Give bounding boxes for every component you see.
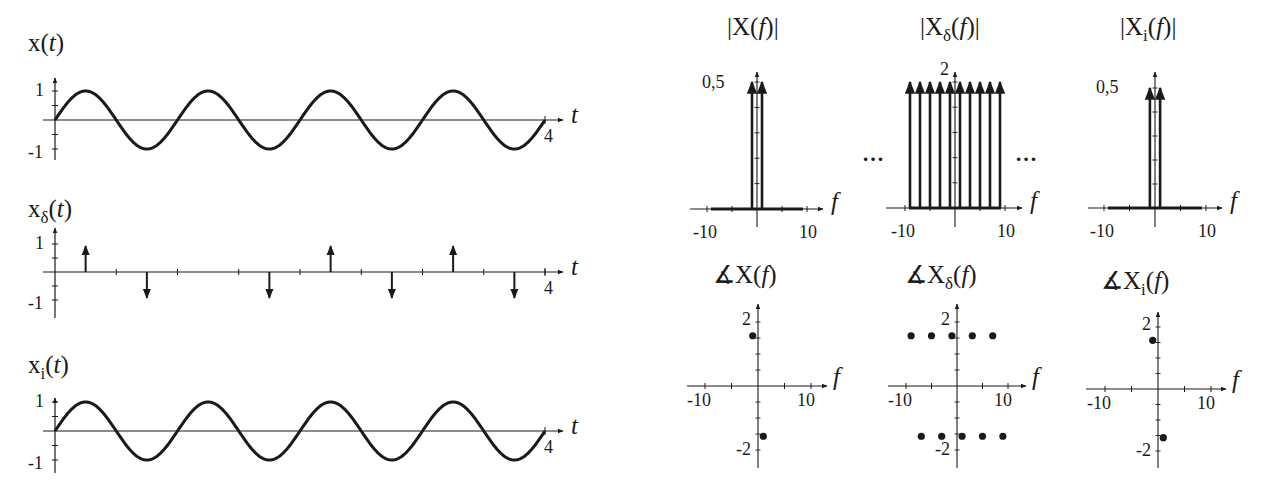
plot-phase-X — [687, 304, 827, 468]
plot-phase-Xi — [1086, 312, 1226, 468]
phase-point — [979, 433, 986, 440]
time-domain-plots — [43, 78, 563, 473]
phase-point — [918, 433, 925, 440]
phase-point — [928, 332, 935, 339]
plot-mag-X — [690, 72, 823, 227]
x-axis-label: t — [571, 254, 578, 279]
y-tick-label: 2 — [941, 310, 950, 328]
x-tick-label: -10 — [687, 391, 711, 409]
x-axis-label: f — [831, 189, 838, 214]
plot-title-x-t: x(t) — [28, 30, 64, 55]
magnitude-spectrum-plots — [690, 72, 1222, 227]
y-max-label: 0,5 — [702, 73, 725, 91]
ellipsis-left: … — [862, 143, 885, 165]
x-axis-label: f — [1032, 364, 1039, 389]
x-tick-label: 10 — [997, 222, 1015, 240]
phase-point — [1149, 337, 1156, 344]
y-tick-label: 2 — [742, 310, 751, 328]
x-axis-label: f — [1232, 367, 1239, 392]
angle-icon: ∡ — [905, 261, 927, 288]
y-tick-label: -1 — [28, 294, 43, 312]
plot-x-i-t — [43, 398, 563, 473]
y-tick-label: 1 — [35, 234, 44, 252]
plot-title-x-i-t: xi(t) — [28, 352, 69, 377]
x-axis-label: f — [1230, 188, 1237, 213]
x-tick-label: -10 — [891, 222, 915, 240]
plot-title-phase-X: ∡X(f) — [713, 262, 777, 287]
ellipsis-right: … — [1015, 143, 1038, 165]
y-tick-label: -1 — [28, 143, 43, 161]
x-axis-label: t — [571, 413, 578, 438]
y-tick-label: 1 — [35, 392, 44, 410]
y-tick-label: -1 — [28, 454, 43, 472]
plot-title-mag-X: |X(f)| — [727, 14, 779, 39]
x-tick-label: 10 — [994, 391, 1012, 409]
phase-point — [908, 332, 915, 339]
y-tick-label: 1 — [35, 81, 44, 99]
phase-point — [989, 332, 996, 339]
x-tick-label: -10 — [1087, 394, 1111, 412]
y-tick-label: 2 — [1142, 315, 1151, 333]
x-tick-label: -10 — [888, 391, 912, 409]
x-tick-label: 10 — [799, 223, 817, 241]
plot-title-phase-Xi: ∡Xi(f) — [1101, 268, 1169, 293]
plot-title-x-delta-t: xδ(t) — [28, 196, 72, 221]
x-axis-label: f — [1030, 188, 1037, 213]
x-tick-label: 10 — [797, 391, 815, 409]
x-tick-label: 4 — [544, 279, 553, 297]
plot-phase-Xdelta — [888, 304, 1026, 468]
phase-point — [760, 433, 767, 440]
x-tick-label: -10 — [693, 223, 717, 241]
y-max-label: 2 — [940, 60, 949, 78]
phase-point — [1160, 434, 1167, 441]
y-max-label: 0,5 — [1096, 78, 1119, 96]
phase-point — [948, 332, 955, 339]
figure-canvas — [0, 0, 1276, 491]
angle-icon: ∡ — [713, 261, 735, 288]
x-tick-label: 10 — [1197, 394, 1215, 412]
x-tick-label: -10 — [1090, 222, 1114, 240]
x-axis-label: t — [571, 102, 578, 127]
x-tick-label: 4 — [544, 127, 553, 145]
phase-point — [749, 332, 756, 339]
y-tick-label: -2 — [935, 440, 950, 458]
plot-x-t — [43, 78, 563, 160]
x-tick-label: 4 — [544, 438, 553, 456]
phase-point — [959, 433, 966, 440]
phase-point — [999, 433, 1006, 440]
angle-icon: ∡ — [1101, 267, 1123, 294]
x-axis-label: f — [833, 364, 840, 389]
phase-point — [969, 332, 976, 339]
plot-title-mag-Xi: |Xi(f)| — [1120, 14, 1176, 39]
y-tick-label: -2 — [736, 440, 751, 458]
y-tick-label: -2 — [1136, 441, 1151, 459]
plot-title-phase-Xdelta: ∡Xδ(f) — [905, 262, 977, 287]
plot-mag-Xdelta — [886, 72, 1022, 227]
plot-x-delta-t — [43, 228, 563, 318]
x-tick-label: 10 — [1198, 222, 1216, 240]
plot-title-mag-Xdelta: |Xδ(f)| — [920, 14, 980, 39]
